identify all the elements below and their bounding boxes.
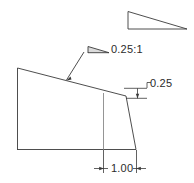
dimension-arrowhead-icon [136, 94, 139, 99]
rise-dimension [124, 83, 151, 99]
technical-drawing [0, 0, 194, 183]
body-outline [18, 68, 137, 150]
run-dimension-label: 1.00 [111, 163, 133, 174]
rise-dimension-label: 0.25 [150, 78, 172, 89]
drawing-canvas: 0.25:1 0.25 1.00 [0, 0, 194, 183]
slope-leader [67, 52, 85, 81]
slope-triangle-small-icon [88, 47, 109, 54]
slope-triangle-icon [128, 12, 187, 30]
slope-ratio-label: 0.25:1 [111, 44, 143, 55]
